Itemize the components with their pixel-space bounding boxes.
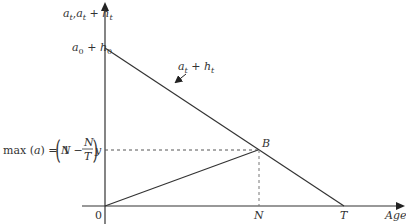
svg-text:T: T: [84, 150, 93, 163]
line-origin-to-B: [105, 150, 258, 206]
intercept-label: a0 + h0: [72, 41, 112, 56]
y-axis-label: at,at + ht: [63, 7, 113, 22]
svg-text:y: y: [94, 144, 102, 157]
svg-text:(: (: [55, 135, 61, 165]
max-a-label: max (a) = N ( 1 − N T ) y: [3, 135, 102, 165]
pointer-arrow-icon: [176, 74, 186, 82]
line-at-plus-ht: [105, 48, 344, 206]
svg-text:max (a) = N: max (a) = N: [3, 144, 71, 157]
diagram-canvas: at,at + ht a0 + h0 at + ht max (a) = N (…: [0, 0, 406, 224]
tick-N: N: [253, 209, 264, 222]
point-B-label: B: [261, 137, 270, 150]
x-axis-label: Age: [384, 209, 406, 222]
line-label: at + ht: [178, 60, 215, 75]
tick-T: T: [340, 209, 349, 222]
svg-text:1 −: 1 −: [63, 144, 83, 157]
origin-label: 0: [95, 209, 102, 222]
